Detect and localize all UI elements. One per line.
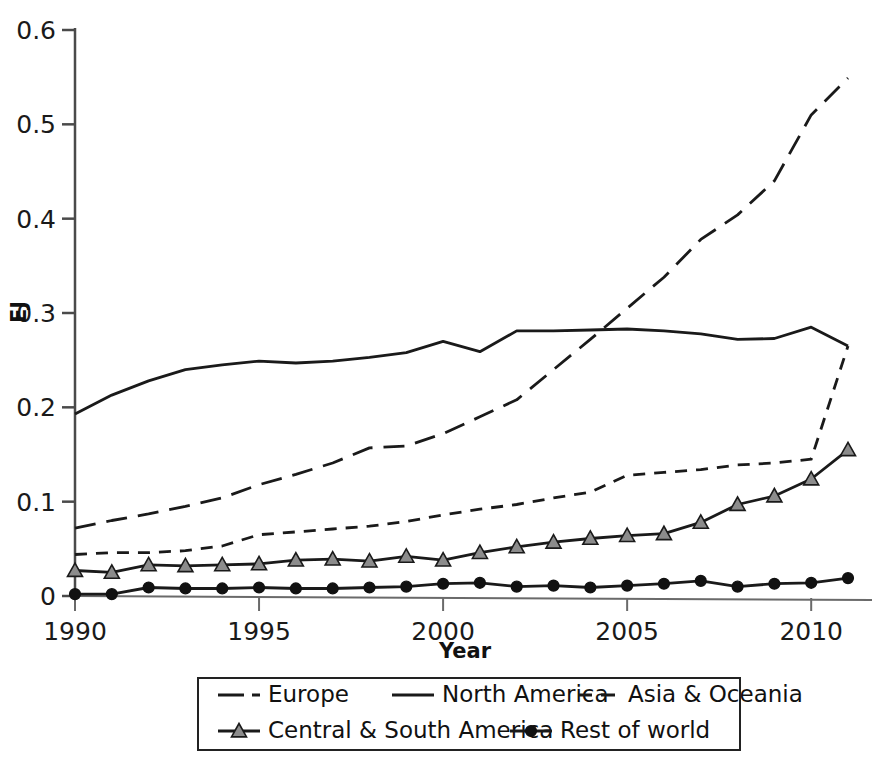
data-point-marker (364, 582, 375, 593)
legend-label: Asia & Oceania (628, 681, 803, 707)
x-axis-line (75, 596, 872, 600)
x-tick-label: 1995 (227, 617, 291, 646)
data-point-marker (254, 582, 265, 593)
x-axis-title: Year (438, 639, 492, 663)
series-central-south-america (68, 442, 856, 578)
series-north-america (75, 327, 848, 414)
chart-legend: EuropeNorth AmericaAsia & OceaniaCentral… (198, 678, 803, 750)
data-point-marker (622, 580, 633, 591)
legend-label: Europe (268, 681, 349, 707)
chart-container: 00.10.20.30.40.50.6 19901995200020052010… (0, 0, 878, 759)
data-point-marker (70, 589, 81, 600)
data-point-marker (475, 577, 486, 588)
data-point-marker (180, 583, 191, 594)
legend-item-central-south-america[interactable]: Central & South America (218, 717, 553, 743)
data-point-marker (732, 581, 743, 592)
y-tick-label: 0.2 (16, 393, 56, 422)
legend-label: Rest of world (560, 717, 710, 743)
data-point-marker (290, 583, 301, 594)
data-point-marker (693, 515, 708, 528)
data-point-marker (217, 583, 228, 594)
data-point-marker (695, 576, 706, 587)
data-point-marker (585, 582, 596, 593)
axes (75, 28, 872, 600)
data-point-marker (806, 577, 817, 588)
x-tick-label: 1990 (43, 617, 107, 646)
series-line (75, 78, 848, 528)
data-series-layer (68, 78, 856, 599)
x-tick-label: 2005 (595, 617, 659, 646)
data-point-marker (511, 581, 522, 592)
series-asia-oceania (75, 346, 848, 555)
series-europe (75, 78, 848, 528)
data-point-marker (548, 580, 559, 591)
data-point-marker (401, 581, 412, 592)
y-tick-label: 0.1 (16, 488, 56, 517)
series-rest-of-world (70, 573, 854, 600)
y-tick-label: 0.5 (16, 110, 56, 139)
data-point-marker (526, 726, 537, 737)
data-point-marker (438, 578, 449, 589)
data-point-marker (106, 589, 117, 600)
data-point-marker (841, 442, 856, 455)
y-tick-label: 0.6 (16, 16, 56, 45)
data-point-marker (769, 578, 780, 589)
y-axis-title: EJ (7, 301, 31, 323)
data-point-marker (843, 573, 854, 584)
data-point-marker (767, 489, 782, 502)
x-tick-label: 2010 (779, 617, 843, 646)
data-point-marker (143, 582, 154, 593)
y-tick-label: 0 (40, 582, 56, 611)
data-point-marker (327, 583, 338, 594)
line-chart: 00.10.20.30.40.50.6 19901995200020052010… (0, 0, 878, 759)
series-line (75, 327, 848, 414)
data-point-marker (659, 578, 670, 589)
series-line (75, 346, 848, 555)
y-tick-label: 0.4 (16, 205, 56, 234)
